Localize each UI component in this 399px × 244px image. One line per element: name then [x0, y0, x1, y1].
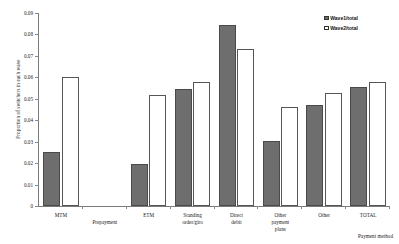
- bar-wave2: [149, 95, 166, 207]
- x-tick-mark: [82, 206, 83, 209]
- legend-item-wave2: Wave2/total: [324, 24, 358, 32]
- bar-wave2: [237, 49, 254, 206]
- y-tick-mark: [35, 206, 39, 207]
- bar-wave1: [175, 89, 192, 207]
- y-axis-title: Proportion of switchers in each wave: [15, 29, 21, 169]
- y-tick-label: 0: [30, 203, 33, 209]
- legend-label-wave2: Wave2/total: [330, 25, 358, 31]
- y-tick-label: 0.05: [24, 96, 33, 102]
- x-category-label: TOTAL: [340, 212, 396, 219]
- bar-wave2: [325, 93, 342, 206]
- y-tick-label: 0.09: [24, 10, 33, 16]
- bar-group: [258, 13, 302, 206]
- x-axis-title: Payment method: [358, 233, 393, 239]
- y-tick-label: 0.01: [24, 182, 33, 188]
- legend-swatch-icon-wave2: [324, 26, 329, 31]
- bar-wave1: [43, 152, 60, 206]
- bar-group: [302, 13, 346, 206]
- bar-wave2: [369, 82, 386, 206]
- y-tick-label: 0.04: [24, 117, 33, 123]
- x-tick-mark: [345, 206, 346, 209]
- legend-item-wave1: Wave1/total: [324, 14, 358, 22]
- bar-group: [83, 13, 127, 206]
- y-tick-label: 0.02: [24, 160, 33, 166]
- bar-wave1: [131, 164, 148, 206]
- x-tick-mark: [126, 206, 127, 209]
- x-tick-mark: [170, 206, 171, 209]
- legend-label-wave1: Wave1/total: [330, 15, 358, 21]
- chart-legend: Wave1/total Wave2/total: [324, 14, 358, 34]
- x-tick-mark: [301, 206, 302, 209]
- bar-group: [39, 13, 83, 206]
- x-tick-mark: [389, 206, 390, 209]
- plot-area: 00.010.020.030.040.050.060.070.080.09: [38, 13, 390, 207]
- bar-wave2: [193, 82, 210, 206]
- bar-wave2: [62, 77, 79, 206]
- y-tick-label: 0.06: [24, 74, 33, 80]
- bar-wave1: [350, 87, 367, 206]
- bar-wave1: [219, 25, 236, 206]
- bar-groups: [39, 13, 390, 206]
- y-tick-label: 0.07: [24, 53, 33, 59]
- bar-group: [215, 13, 259, 206]
- y-tick-label: 0.03: [24, 139, 33, 145]
- bar-group: [171, 13, 215, 206]
- y-tick-label: 0.08: [24, 31, 33, 37]
- bar-group: [127, 13, 171, 206]
- x-tick-mark: [214, 206, 215, 209]
- x-tick-mark: [257, 206, 258, 209]
- bar-chart: Proportion of switchers in each wave 00.…: [0, 0, 399, 244]
- bar-wave1: [306, 105, 323, 206]
- bar-wave2: [281, 107, 298, 206]
- bar-wave1: [263, 141, 280, 206]
- x-category-label: Prepayment: [77, 219, 133, 226]
- bar-group: [346, 13, 390, 206]
- legend-swatch-icon-wave1: [324, 16, 329, 21]
